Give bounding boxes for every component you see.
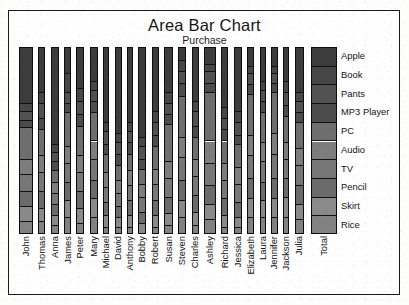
bar-segment-pencil	[128, 201, 132, 216]
bar-segment-pants	[39, 104, 44, 119]
legend-swatch-skirt[interactable]	[312, 198, 336, 217]
bar-segment-pc	[77, 127, 83, 157]
bar-segment-pencil	[65, 183, 70, 202]
bar-michael[interactable]	[103, 47, 109, 234]
bar-segment-tv	[116, 194, 121, 207]
bar-james[interactable]	[64, 47, 71, 234]
bar-laura[interactable]	[260, 47, 266, 234]
x-label-charles: Charles	[190, 236, 199, 268]
bar-robert[interactable]	[152, 47, 159, 234]
bar-ashley[interactable]	[204, 47, 216, 234]
legend-swatch-book[interactable]	[312, 67, 336, 86]
bar-segment-book	[65, 74, 70, 93]
bar-segment-apple	[179, 48, 185, 61]
bar-segment-tv	[284, 160, 288, 179]
bar-segment-pants	[65, 93, 70, 104]
bar-peter[interactable]	[76, 47, 84, 234]
legend-swatch-pants[interactable]	[312, 85, 336, 104]
x-label-peter: Peter	[75, 236, 84, 258]
bar-segment-book	[296, 93, 303, 102]
bar-segment-mp3-player	[284, 106, 288, 117]
bar-segment-tv	[165, 179, 172, 198]
bar-richard[interactable]	[221, 47, 228, 234]
bar-segment-mp3-player	[222, 130, 227, 141]
legend-swatch-rice[interactable]	[312, 216, 336, 234]
bar-segment-rice	[193, 226, 198, 234]
bar-segment-tv	[261, 162, 265, 183]
bar-segment-rice	[104, 228, 108, 234]
bar-segment-pc	[179, 97, 185, 138]
bar-segment-pc	[284, 117, 288, 143]
bar-charles[interactable]	[192, 47, 199, 234]
bar-jessica[interactable]	[234, 47, 242, 234]
x-label-bobby: Bobby	[137, 236, 146, 263]
bar-segment-rice	[153, 228, 158, 234]
bar-segment-pants	[248, 74, 253, 85]
bar-segment-book	[284, 82, 288, 93]
bar-segment-pc	[20, 128, 32, 160]
x-axis-labels: JohnThomasAnnaJamesPeterMaryMichaelDavid…	[19, 236, 399, 296]
bar-segment-pc	[193, 138, 198, 160]
bar-segment-apple	[235, 48, 241, 112]
bar-elizabeth[interactable]	[247, 47, 254, 234]
bar-segment-pants	[205, 72, 215, 83]
bar-segment-mp3-player	[248, 85, 253, 94]
legend-swatch-audio[interactable]	[312, 142, 336, 161]
bar-segment-skirt	[104, 216, 108, 227]
bar-segment-pencil	[139, 213, 145, 224]
bar-segment-apple	[261, 48, 265, 82]
bar-steven[interactable]	[178, 47, 186, 234]
bar-bobby[interactable]	[138, 47, 146, 234]
bar-segment-pants	[165, 104, 172, 115]
bar-segment-pants	[116, 143, 121, 154]
bar-segment-pencil	[179, 181, 185, 202]
bar-segment-tv	[179, 158, 185, 180]
bar-segment-tv	[296, 166, 303, 187]
legend-swatch-apple[interactable]	[312, 48, 336, 67]
bar-segment-audio	[205, 142, 215, 164]
bar-segment-skirt	[165, 214, 172, 225]
bar-segment-skirt	[128, 216, 132, 227]
bar-segment-pencil	[39, 192, 44, 209]
x-label-james: James	[63, 236, 72, 264]
bar-john[interactable]	[19, 47, 33, 234]
bar-segment-audio	[139, 185, 145, 198]
bar-segment-rice	[52, 226, 58, 234]
bar-segment-audio	[128, 171, 132, 186]
bar-segment-audio	[65, 147, 70, 164]
bar-segment-mp3-player	[179, 84, 185, 97]
bar-segment-rice	[296, 220, 303, 234]
bar-segment-mp3-player	[205, 84, 215, 93]
legend-label-rice: Rice	[341, 219, 360, 230]
bar-segment-audio	[116, 181, 121, 194]
x-label-total: Total	[319, 236, 328, 256]
bar-jackson[interactable]	[283, 47, 289, 234]
bar-julia[interactable]	[295, 47, 304, 234]
legend-swatch-mp3-player[interactable]	[312, 104, 336, 123]
bar-segment-rice	[128, 228, 132, 234]
bar-mary[interactable]	[90, 47, 98, 234]
bar-segment-apple	[128, 48, 132, 123]
bar-segment-pencil	[205, 186, 215, 205]
legend-labels: AppleBookPantsMP3 PlayerPCAudioTVPencilS…	[341, 47, 401, 237]
bar-segment-pencil	[272, 179, 277, 200]
bar-anna[interactable]	[51, 47, 59, 234]
legend-swatch-pc[interactable]	[312, 123, 336, 142]
bar-segment-skirt	[52, 216, 58, 225]
bar-anthony[interactable]	[127, 47, 133, 234]
bar-segment-pencil	[20, 192, 32, 207]
bar-susan[interactable]	[164, 47, 173, 234]
bar-segment-book	[139, 138, 145, 147]
bar-jennifer[interactable]	[271, 47, 278, 234]
bar-segment-rice	[272, 218, 277, 234]
legend-label-pants: Pants	[341, 88, 365, 99]
bar-segment-apple	[77, 48, 83, 89]
bar-segment-rice	[222, 228, 227, 234]
legend-swatch-pencil[interactable]	[312, 179, 336, 198]
bar-thomas[interactable]	[38, 47, 45, 234]
legend-swatch-tv[interactable]	[312, 160, 336, 179]
bar-segment-pencil	[153, 201, 158, 216]
bar-segment-pc	[65, 113, 70, 147]
bar-segment-mp3-player	[296, 113, 303, 122]
bar-david[interactable]	[115, 47, 122, 234]
